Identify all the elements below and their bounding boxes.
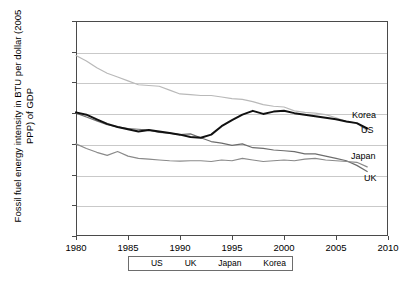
x-tick-label-1995: 1995: [209, 243, 255, 253]
x-tick-mark-2005: [336, 236, 337, 240]
gridline-12000: [77, 53, 387, 54]
y-axis-title: Fossil fuel energy intensity in BTU per …: [12, 6, 36, 226]
x-tick-label-1990: 1990: [157, 243, 203, 253]
x-tick-label-2005: 2005: [313, 243, 359, 253]
x-tick-mark-1980: [76, 236, 77, 240]
legend-label-uk: UK: [185, 259, 197, 268]
y-tick-mark-8000: [72, 113, 76, 114]
gridline-8000: [77, 114, 387, 115]
x-tick-label-1980: 1980: [53, 243, 99, 253]
series-end-label-korea: Korea: [352, 111, 376, 120]
gridline-4000: [77, 176, 387, 177]
gridline-6000: [77, 145, 387, 146]
x-tick-mark-2000: [284, 236, 285, 240]
series-end-label-us: US: [361, 126, 374, 135]
y-tick-mark-10000: [72, 82, 76, 83]
y-tick-mark-6000: [72, 144, 76, 145]
legend-label-us: US: [151, 259, 163, 268]
legend-label-korea: Korea: [263, 259, 286, 268]
series-end-label-japan: Japan: [351, 152, 376, 161]
x-tick-mark-1985: [128, 236, 129, 240]
legend-item-korea[interactable]: Korea: [247, 259, 286, 268]
y-tick-mark-2000: [72, 205, 76, 206]
series-end-label-uk: UK: [364, 174, 377, 183]
x-tick-label-1985: 1985: [105, 243, 151, 253]
legend-label-japan: Japan: [218, 259, 241, 268]
legend-item-uk[interactable]: UK: [169, 259, 197, 268]
y-tick-mark-12000: [72, 52, 76, 53]
plot-area: [76, 21, 388, 236]
chart-container: Fossil fuel energy intensity in BTU per …: [0, 0, 412, 287]
legend-item-japan[interactable]: Japan: [202, 259, 241, 268]
chart-legend: US UK Japan Korea: [128, 256, 293, 271]
gridline-10000: [77, 83, 387, 84]
x-tick-mark-1990: [180, 236, 181, 240]
legend-item-us[interactable]: US: [135, 259, 163, 268]
x-tick-mark-2010: [388, 236, 389, 240]
x-tick-label-2000: 2000: [261, 243, 307, 253]
y-tick-mark-14000: [72, 21, 76, 22]
x-tick-mark-1995: [232, 236, 233, 240]
y-tick-mark-4000: [72, 175, 76, 176]
x-tick-label-2010: 2010: [365, 243, 411, 253]
gridline-2000: [77, 206, 387, 207]
